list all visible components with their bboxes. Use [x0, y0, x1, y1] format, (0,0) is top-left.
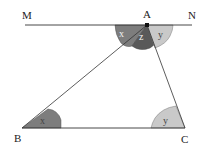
label-b: B	[14, 132, 21, 144]
label-a: A	[143, 8, 151, 20]
label-n: N	[188, 9, 196, 21]
angle-label-y-at-a: y	[158, 29, 163, 40]
angle-label-z-at-a: z	[139, 31, 144, 42]
label-m: M	[22, 9, 32, 21]
angle-label-x-at-b: x	[40, 115, 45, 126]
point-a-marker	[145, 23, 149, 27]
geometry-diagram: M A N B C x z y x y	[0, 0, 209, 156]
segment-ab	[22, 25, 147, 128]
angle-label-x-at-a: x	[119, 28, 124, 39]
label-c: C	[181, 133, 188, 145]
angle-y-at-c	[151, 106, 185, 128]
angle-label-y-at-c: y	[163, 115, 168, 126]
